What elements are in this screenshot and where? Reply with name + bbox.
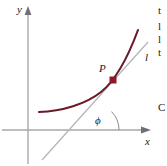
point-p-label: P [98,62,106,74]
angle-phi-label: ϕ [95,114,101,126]
figure-canvas: y x P l ϕ [0,0,167,166]
edge-text-fragment: l [158,33,167,45]
edge-text-fragment: C [158,101,167,113]
x-axis-label: x [144,135,150,147]
y-axis-label: y [16,3,22,15]
tangent-line-angle-figure: y x P l ϕ t l l t C [0,0,167,166]
point-p-marker [110,77,117,84]
function-curve [39,30,138,112]
angle-arc [112,112,120,130]
edge-text-fragment: t [158,4,167,16]
x-axis-arrowhead [141,126,151,133]
tangent-line [42,42,148,160]
y-axis-arrowhead [25,6,32,15]
axes-group [2,6,151,164]
tangent-line-label: l [145,51,148,63]
edge-text-fragment: l [158,20,167,32]
edge-text-fragment: t [158,46,167,58]
